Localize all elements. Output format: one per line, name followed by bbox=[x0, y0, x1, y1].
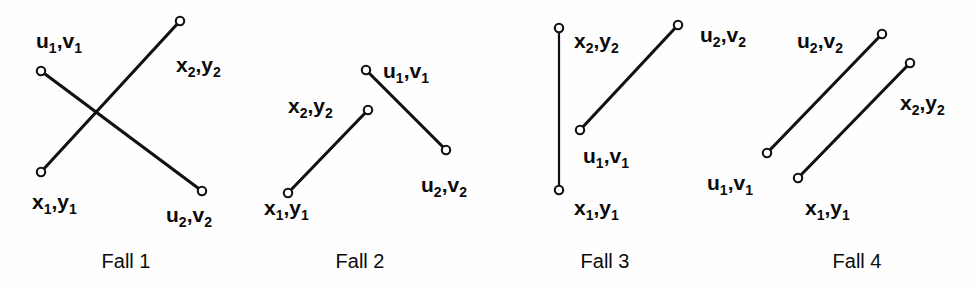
fall-4-label-x1y1: x1,y1 bbox=[805, 196, 850, 223]
fall-2-segment-x-to-endpoint-icon bbox=[364, 106, 372, 114]
fall-2-label-x2y2: x2,y2 bbox=[288, 94, 333, 121]
fall-1-segment-x-to-endpoint-icon bbox=[176, 17, 184, 25]
fall-2-segment-u-from-endpoint-icon bbox=[362, 66, 370, 74]
fall-2-label-x1y1: x1,y1 bbox=[264, 196, 309, 223]
fall-1-label-x2y2: x2,y2 bbox=[176, 53, 221, 80]
fall-4: u2,v2x2,y2u1,v1x1,y1Fall 4 bbox=[707, 29, 945, 272]
fall-3-label-x2y2: x2,y2 bbox=[574, 29, 619, 56]
fall-4-label-x2y2: x2,y2 bbox=[900, 91, 945, 118]
fall-3: x2,y2u2,v2u1,v1x1,y1Fall 3 bbox=[555, 21, 746, 272]
fall-1-caption: Fall 1 bbox=[102, 250, 151, 272]
fall-3-label-u1v1: u1,v1 bbox=[583, 144, 629, 171]
figure-canvas: u1,v1x2,y2x1,y1u2,v2Fall 1u1,v1x2,y2x1,y… bbox=[0, 0, 977, 286]
fall-4-segment-u-to-endpoint-icon bbox=[878, 30, 886, 38]
segment-cases-figure: u1,v1x2,y2x1,y1u2,v2Fall 1u1,v1x2,y2x1,y… bbox=[0, 0, 977, 286]
fall-1-segment-u-to-endpoint-icon bbox=[198, 187, 206, 195]
fall-2-segment-u bbox=[366, 70, 446, 150]
fall-1-label-u1v1: u1,v1 bbox=[36, 29, 82, 56]
fall-4-segment-x bbox=[798, 63, 910, 178]
fall-3-label-x1y1: x1,y1 bbox=[574, 196, 619, 223]
fall-2-segment-x bbox=[288, 110, 368, 193]
fall-1-label-u2v2: u2,v2 bbox=[166, 203, 212, 230]
fall-4-segment-u-from-endpoint-icon bbox=[763, 149, 771, 157]
fall-3-segment-x-to-endpoint-icon bbox=[555, 24, 563, 32]
fall-4-label-u1v1: u1,v1 bbox=[707, 171, 753, 198]
fall-3-segment-x-from-endpoint-icon bbox=[555, 186, 563, 194]
fall-4-segment-x-to-endpoint-icon bbox=[906, 59, 914, 67]
fall-2-label-u1v1: u1,v1 bbox=[383, 59, 429, 86]
fall-4-caption: Fall 4 bbox=[833, 250, 882, 272]
fall-4-label-u2v2: u2,v2 bbox=[797, 29, 843, 56]
fall-2-label-u2v2: u2,v2 bbox=[421, 173, 467, 200]
fall-4-segment-x-from-endpoint-icon bbox=[794, 174, 802, 182]
fall-2-segment-u-to-endpoint-icon bbox=[442, 146, 450, 154]
fall-3-label-u2v2: u2,v2 bbox=[700, 23, 746, 50]
fall-3-caption: Fall 3 bbox=[581, 250, 630, 272]
fall-3-segment-u-to-endpoint-icon bbox=[674, 21, 682, 29]
fall-1-segment-u-from-endpoint-icon bbox=[37, 67, 45, 75]
fall-2-caption: Fall 2 bbox=[336, 250, 385, 272]
fall-2: u1,v1x2,y2x1,y1u2,v2Fall 2 bbox=[264, 59, 467, 272]
fall-1-segment-u bbox=[41, 71, 202, 191]
fall-3-segment-u-from-endpoint-icon bbox=[576, 126, 584, 134]
fall-1-segment-x-from-endpoint-icon bbox=[37, 168, 45, 176]
fall-1: u1,v1x2,y2x1,y1u2,v2Fall 1 bbox=[32, 17, 221, 272]
fall-1-label-x1y1: x1,y1 bbox=[32, 190, 77, 217]
